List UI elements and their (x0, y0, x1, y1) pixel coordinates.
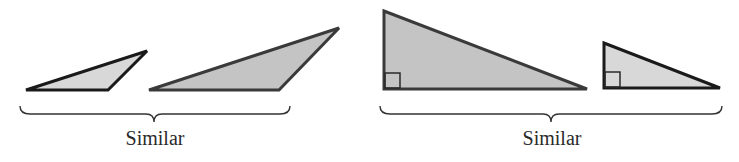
similar-triangles-diagram: Similar Similar (0, 0, 739, 162)
group-right-pair: Similar (380, 11, 722, 149)
similar-label-right: Similar (523, 127, 582, 149)
large-oblique-triangle (149, 28, 339, 90)
large-right-triangle (384, 11, 587, 89)
brace-right-group (380, 106, 722, 122)
small-oblique-triangle (26, 51, 147, 90)
brace-left-group (20, 106, 290, 122)
group-oblique-pair: Similar (20, 28, 339, 149)
small-right-triangle (604, 43, 720, 88)
similar-label-left: Similar (126, 127, 185, 149)
